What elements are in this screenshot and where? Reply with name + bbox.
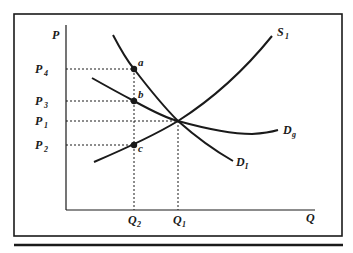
q1-main: Q (173, 213, 182, 227)
dg-sub: g (291, 130, 296, 139)
dg-main: D (282, 123, 292, 137)
p3-main: P (35, 94, 43, 108)
demand-curve-di (113, 35, 233, 161)
s1-main: S (277, 25, 284, 39)
p1-main: P (35, 114, 43, 128)
point-a (131, 66, 137, 72)
p2-main: P (35, 138, 43, 152)
p3-sub: 3 (43, 101, 48, 110)
p2-sub: 2 (43, 145, 48, 154)
supply-demand-diagram: a b c P Q P 4 P 3 P 1 P 2 Q 2 Q 1 S 1 D … (0, 0, 353, 253)
demand-curve-dg (92, 78, 278, 134)
p4-main: P (35, 62, 43, 76)
curve-label-s1: S 1 (277, 25, 289, 41)
point-c-label: c (138, 142, 143, 154)
y-axis-label: P (52, 28, 60, 42)
quantity-label-q2: Q 2 (128, 213, 141, 229)
q2-sub: 2 (136, 220, 141, 229)
q1-sub: 1 (182, 220, 186, 229)
price-label-p1: P 1 (35, 114, 48, 130)
price-label-p4: P 4 (35, 62, 48, 78)
di-main: D (235, 155, 245, 169)
point-a-label: a (138, 56, 144, 68)
di-sub: I (244, 162, 249, 171)
point-c (131, 142, 137, 148)
supply-curve-s1 (94, 36, 272, 162)
p4-sub: 4 (43, 69, 48, 78)
p1-sub: 1 (44, 121, 48, 130)
x-axis-label: Q (306, 211, 315, 225)
curve-label-di: D I (235, 155, 249, 171)
point-b-label: b (138, 88, 144, 100)
price-label-p2: P 2 (35, 138, 48, 154)
q2-main: Q (128, 213, 137, 227)
point-b (131, 98, 137, 104)
guide-lines (66, 69, 178, 210)
s1-sub: 1 (285, 32, 289, 41)
curve-label-dg: D g (282, 123, 296, 139)
price-label-p3: P 3 (35, 94, 48, 110)
quantity-label-q1: Q 1 (173, 213, 186, 229)
